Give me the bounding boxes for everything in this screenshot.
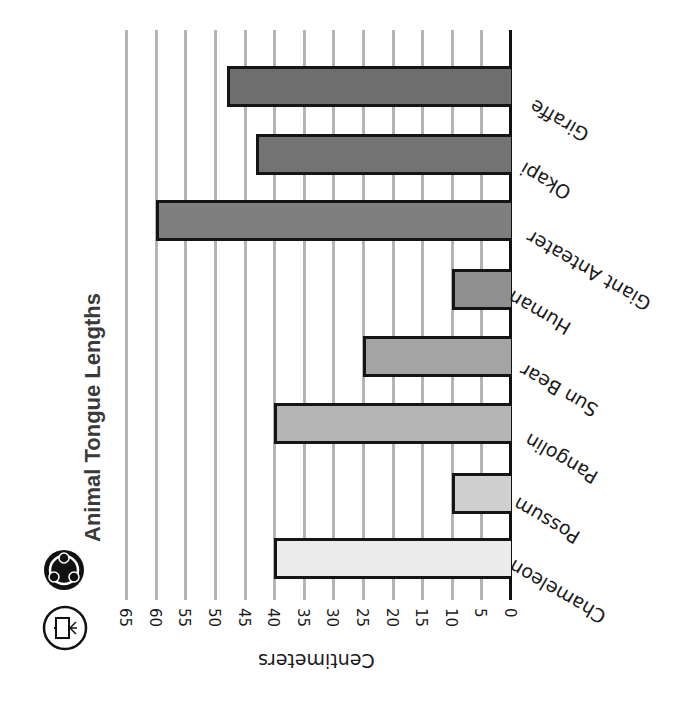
gridline xyxy=(244,30,247,600)
gridline xyxy=(125,30,128,600)
category-label: Human xyxy=(504,286,574,339)
tick-label: 30 xyxy=(323,608,341,627)
tick-label: 50 xyxy=(205,608,223,627)
gridline xyxy=(303,30,306,600)
gridline xyxy=(214,30,217,600)
gridline xyxy=(184,30,187,600)
tick-label: 5 xyxy=(471,608,489,618)
gridline xyxy=(392,30,395,600)
bar-chameleon xyxy=(274,538,511,579)
tick-label: 10 xyxy=(442,608,460,627)
bar-pangolin xyxy=(274,403,511,444)
tick-label: 0 xyxy=(501,608,519,618)
bar-giraffe xyxy=(227,66,511,107)
tick-label: 60 xyxy=(146,608,164,627)
category-label: Possum xyxy=(509,493,583,548)
tick-label: 20 xyxy=(383,608,401,627)
tick-label: 55 xyxy=(175,608,193,627)
tick-label: 25 xyxy=(353,608,371,627)
x-axis-label: Centimeters xyxy=(258,650,375,672)
category-label: Pangolin xyxy=(520,429,601,488)
category-label: Sun Bear xyxy=(515,359,601,421)
gridline xyxy=(480,30,483,600)
gridline xyxy=(451,30,454,600)
gridline xyxy=(273,30,276,600)
tick-label: 40 xyxy=(264,608,282,627)
zero-axis xyxy=(509,30,512,600)
bar-possum xyxy=(452,473,511,514)
gridline xyxy=(155,30,158,600)
category-label: Okapi xyxy=(516,158,574,204)
chart-title: Animal Tongue Lengths xyxy=(80,293,106,542)
gridline xyxy=(362,30,365,600)
tick-label: 15 xyxy=(412,608,430,627)
category-label: Giraffe xyxy=(526,95,593,146)
category-label: Chameleon xyxy=(506,555,610,628)
tick-label: 45 xyxy=(235,608,253,627)
bar-sun-bear xyxy=(363,336,511,377)
bar-giant-anteater xyxy=(156,200,511,241)
gridline xyxy=(332,30,335,600)
tick-label: 65 xyxy=(116,608,134,627)
bar-human xyxy=(452,269,511,310)
tick-label: 35 xyxy=(294,608,312,627)
bar-okapi xyxy=(256,134,511,175)
presentation-board-icon xyxy=(42,605,88,651)
gridline xyxy=(421,30,424,600)
group-circle-icon xyxy=(42,548,86,592)
